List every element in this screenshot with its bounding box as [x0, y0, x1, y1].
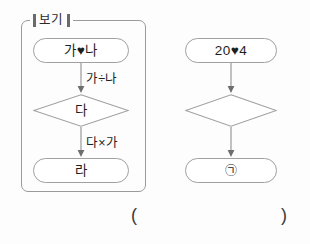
right-connector-1 [185, 63, 277, 94]
right-connector-2 [185, 127, 277, 158]
left-connector-1-label: 가÷나 [86, 72, 117, 85]
left-decision-node: 다 [33, 94, 129, 127]
left-end-node: 라 [33, 158, 129, 183]
right-end-node: ㉠ [185, 158, 277, 183]
right-decision-node [185, 94, 277, 127]
right-flowchart: 20♥4 ㉠ [185, 38, 277, 183]
right-decision-node-label [185, 94, 277, 127]
example-label-text: 보기 [39, 14, 64, 27]
left-start-node: 가♥나 [33, 38, 129, 63]
down-arrow-icon [225, 127, 238, 158]
example-label: 보기 [30, 12, 73, 28]
left-end-node-label: 라 [75, 164, 88, 178]
down-arrow-icon [225, 63, 238, 94]
left-connector-2: 다×가 [33, 127, 129, 158]
right-start-node-label: 20♥4 [215, 44, 248, 58]
left-connector-1: 가÷나 [33, 63, 129, 94]
bracket-left-icon [33, 14, 36, 27]
bracket-right-icon [67, 14, 70, 27]
left-start-node-label: 가♥나 [64, 44, 98, 58]
worksheet-figure: 보기 가♥나 가÷나 다 다×가 라 [0, 0, 310, 244]
right-end-node-label: ㉠ [225, 165, 238, 177]
left-connector-2-label: 다×가 [86, 136, 118, 149]
right-start-node: 20♥4 [185, 38, 277, 63]
left-decision-node-label: 다 [33, 94, 129, 127]
answer-close-paren: ) [281, 206, 287, 224]
answer-open-paren: ( [131, 206, 137, 224]
left-flowchart: 가♥나 가÷나 다 다×가 라 [33, 38, 129, 183]
